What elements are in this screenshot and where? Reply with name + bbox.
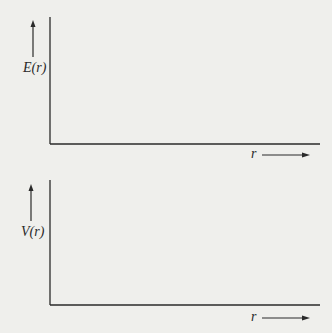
right-arrow-icon bbox=[262, 316, 310, 321]
energy-plot: E(r) r bbox=[0, 0, 332, 166]
energy-axes bbox=[0, 0, 332, 166]
y-axis-label: E(r) bbox=[23, 60, 46, 76]
x-axis-label: r bbox=[251, 146, 256, 162]
potential-plot: V(r) r bbox=[0, 166, 332, 333]
right-arrow-icon bbox=[262, 153, 310, 158]
y-axis-label: V(r) bbox=[21, 224, 44, 240]
potential-axes bbox=[0, 166, 332, 333]
up-arrow-icon bbox=[29, 184, 34, 221]
x-axis-label: r bbox=[251, 309, 256, 325]
up-arrow-icon bbox=[31, 20, 36, 57]
